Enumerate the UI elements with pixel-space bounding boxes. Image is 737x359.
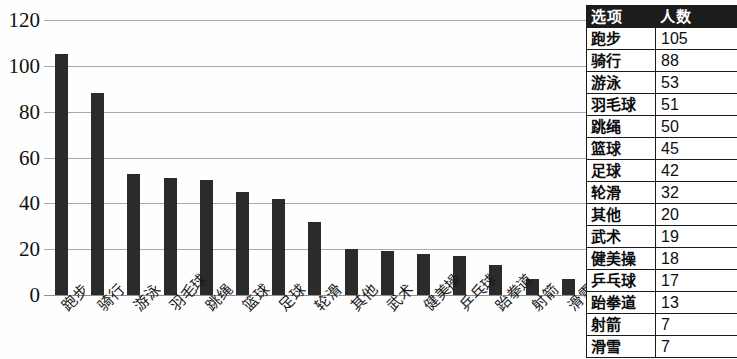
bar <box>308 222 321 295</box>
table-row: 武术19 <box>587 226 737 248</box>
cell-option: 其他 <box>587 204 656 226</box>
cell-option: 篮球 <box>587 138 656 160</box>
cell-option: 游泳 <box>587 72 656 94</box>
cell-count: 42 <box>656 160 737 182</box>
cell-count: 7 <box>656 336 737 358</box>
data-table-panel: 选项 人数 跑步105骑行88游泳53羽毛球51跳绳50篮球45足球42轮滑32… <box>586 5 737 359</box>
gridline <box>44 112 586 113</box>
cell-option: 跆拳道 <box>587 292 656 314</box>
y-axis-tick-label: 20 <box>0 239 40 260</box>
table-row: 跳绳50 <box>587 116 737 138</box>
table-row: 羽毛球51 <box>587 94 737 116</box>
table-row: 足球42 <box>587 160 737 182</box>
bar <box>272 199 285 295</box>
y-axis: 020406080100120 <box>0 0 40 310</box>
gridline <box>44 158 586 159</box>
cell-count: 51 <box>656 94 737 116</box>
table-row: 跆拳道13 <box>587 292 737 314</box>
table-row: 乒乓球17 <box>587 270 737 292</box>
bar <box>127 174 140 295</box>
cell-count: 7 <box>656 314 737 336</box>
bar <box>55 54 68 295</box>
table-row: 其他20 <box>587 204 737 226</box>
cell-option: 跑步 <box>587 28 656 50</box>
table-body: 跑步105骑行88游泳53羽毛球51跳绳50篮球45足球42轮滑32其他20武术… <box>587 28 737 358</box>
y-axis-tick-label: 40 <box>0 193 40 214</box>
table-row: 轮滑32 <box>587 182 737 204</box>
cell-option: 健美操 <box>587 248 656 270</box>
table-row: 骑行88 <box>587 50 737 72</box>
cell-count: 19 <box>656 226 737 248</box>
table-row: 跑步105 <box>587 28 737 50</box>
table-row: 射箭7 <box>587 314 737 336</box>
table-row: 游泳53 <box>587 72 737 94</box>
table-row: 滑雪7 <box>587 336 737 358</box>
table-header-row: 选项 人数 <box>587 6 737 28</box>
bar <box>164 178 177 295</box>
table-header: 选项 人数 <box>587 6 737 28</box>
cell-option: 滑雪 <box>587 336 656 358</box>
cell-count: 13 <box>656 292 737 314</box>
cell-count: 45 <box>656 138 737 160</box>
bar <box>91 93 104 295</box>
gridline <box>44 203 586 204</box>
y-axis-tick-label: 100 <box>0 55 40 76</box>
cell-option: 射箭 <box>587 314 656 336</box>
cell-count: 53 <box>656 72 737 94</box>
data-table: 选项 人数 跑步105骑行88游泳53羽毛球51跳绳50篮球45足球42轮滑32… <box>586 5 737 358</box>
column-header-option: 选项 <box>587 6 656 28</box>
cell-option: 乒乓球 <box>587 270 656 292</box>
cell-count: 50 <box>656 116 737 138</box>
cell-count: 32 <box>656 182 737 204</box>
cell-count: 88 <box>656 50 737 72</box>
y-axis-tick-label: 120 <box>0 10 40 31</box>
cell-option: 跳绳 <box>587 116 656 138</box>
cell-count: 105 <box>656 28 737 50</box>
x-axis: 跑步骑行游泳羽毛球跳绳篮球足球轮滑其他武术健美操乒乓球跆拳道射箭滑雪 <box>44 296 586 359</box>
cell-option: 武术 <box>587 226 656 248</box>
column-header-count: 人数 <box>656 6 737 28</box>
cell-count: 18 <box>656 248 737 270</box>
cell-option: 轮滑 <box>587 182 656 204</box>
y-axis-tick-label: 80 <box>0 101 40 122</box>
bar <box>236 192 249 295</box>
bar-chart: 020406080100120 跑步骑行游泳羽毛球跳绳篮球足球轮滑其他武术健美操… <box>0 0 586 359</box>
cell-count: 17 <box>656 270 737 292</box>
cell-option: 羽毛球 <box>587 94 656 116</box>
chart-and-table-figure: 020406080100120 跑步骑行游泳羽毛球跳绳篮球足球轮滑其他武术健美操… <box>0 0 737 359</box>
table-row: 健美操18 <box>587 248 737 270</box>
gridline <box>44 66 586 67</box>
cell-count: 20 <box>656 204 737 226</box>
gridline <box>44 20 586 21</box>
cell-option: 足球 <box>587 160 656 182</box>
plot-area <box>44 0 586 310</box>
table-row: 篮球45 <box>587 138 737 160</box>
y-axis-tick-label: 60 <box>0 147 40 168</box>
y-axis-tick-label: 0 <box>0 285 40 306</box>
cell-option: 骑行 <box>587 50 656 72</box>
